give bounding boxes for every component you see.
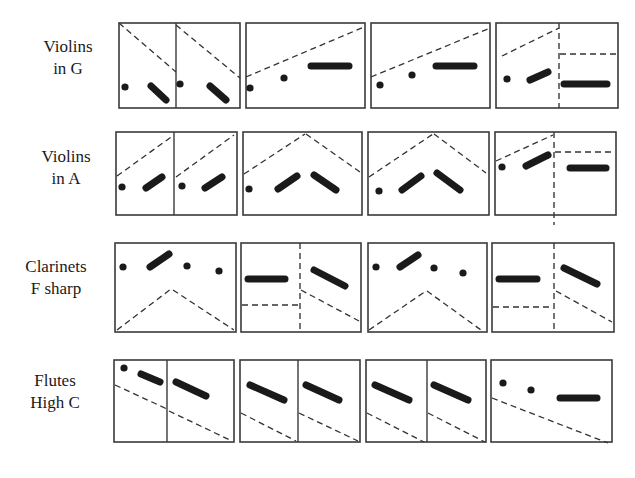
panel-frame: [116, 132, 237, 215]
dot-marker: [118, 183, 125, 190]
bar-marker: [210, 86, 226, 100]
bar-marker: [306, 385, 339, 400]
bar-marker: [437, 173, 460, 190]
panel: [491, 360, 612, 443]
dashed-contour-line: [306, 134, 360, 172]
bar-marker: [314, 175, 336, 190]
panel: [368, 132, 489, 215]
panel-frame: [495, 132, 616, 215]
dashed-contour-line: [176, 135, 234, 177]
panel-frame: [368, 132, 489, 215]
panel: [243, 132, 362, 215]
bar-marker: [526, 155, 548, 166]
dashed-contour-line: [556, 291, 612, 322]
dot-marker: [376, 81, 383, 88]
bar-marker: [314, 270, 345, 286]
dot-marker: [527, 386, 534, 393]
dot-marker: [372, 263, 379, 270]
dot-marker: [280, 74, 287, 81]
dot-marker: [119, 263, 126, 270]
dot-marker: [120, 364, 127, 371]
dashed-contour-line: [492, 398, 608, 443]
panel: [246, 23, 365, 108]
bar-marker: [402, 176, 421, 190]
bar-marker: [250, 385, 284, 400]
panel: [495, 132, 616, 225]
dashed-contour-line: [115, 385, 167, 409]
dashed-contour-line: [367, 413, 424, 442]
bar-marker: [434, 385, 468, 400]
dashed-contour-line: [301, 290, 359, 321]
dashed-contour-line: [502, 28, 559, 56]
dot-marker: [503, 75, 510, 82]
bar-marker: [150, 254, 169, 267]
dot-marker: [246, 84, 253, 91]
diagram-row-0: [119, 23, 618, 108]
panel: [496, 23, 618, 108]
panel: [368, 243, 487, 332]
dashed-contour-line: [299, 413, 358, 441]
dot-marker: [245, 185, 252, 192]
dashed-contour-line: [371, 28, 490, 77]
panel: [241, 243, 361, 332]
dashed-contour-line: [369, 134, 433, 177]
panel-frame: [114, 360, 234, 442]
dashed-contour-line: [119, 23, 176, 72]
dashed-contour-line: [176, 25, 240, 78]
bar-marker: [375, 385, 409, 400]
dot-marker: [408, 71, 415, 78]
bar-marker: [205, 177, 222, 188]
pattern-diagram: [0, 0, 635, 478]
panel: [119, 23, 240, 108]
dashed-contour-line: [117, 135, 174, 176]
dashed-contour-line: [434, 134, 486, 173]
diagram-row-3: [114, 360, 612, 443]
panel: [240, 360, 360, 442]
dot-marker: [375, 187, 382, 194]
bar-marker: [146, 177, 162, 188]
dot-marker: [121, 83, 128, 90]
panel: [366, 360, 486, 442]
dot-marker: [176, 80, 183, 87]
bar-marker: [141, 374, 160, 382]
bar-marker: [530, 72, 548, 80]
diagram-row-1: [116, 132, 616, 225]
dashed-contour-line: [428, 413, 485, 442]
panel: [371, 23, 490, 108]
bar-marker: [176, 382, 206, 396]
panel: [116, 132, 237, 215]
dot-marker: [430, 264, 437, 271]
panel: [115, 243, 236, 332]
panel: [492, 243, 614, 332]
dot-marker: [498, 163, 505, 170]
dot-marker: [499, 379, 506, 386]
panel-frame: [243, 132, 362, 215]
dot-marker: [215, 267, 222, 274]
bar-marker: [278, 176, 297, 189]
dashed-contour-line: [427, 291, 481, 330]
panel: [114, 360, 234, 442]
panel-frame: [496, 23, 618, 108]
dashed-contour-line: [169, 411, 232, 441]
dashed-contour-line: [369, 291, 426, 330]
dashed-contour-line: [241, 413, 296, 441]
dashed-contour-line: [173, 290, 234, 330]
dashed-contour-line: [117, 289, 171, 330]
dashed-contour-line: [244, 134, 305, 174]
diagram-row-2: [115, 243, 614, 332]
dot-marker: [183, 262, 190, 269]
panel-frame: [492, 243, 614, 332]
bar-marker: [151, 86, 166, 100]
dot-marker: [178, 182, 185, 189]
dot-marker: [459, 269, 466, 276]
bar-marker: [400, 255, 418, 267]
bar-marker: [564, 268, 597, 284]
